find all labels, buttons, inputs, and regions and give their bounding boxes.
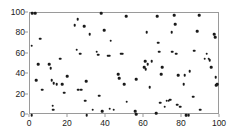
data-point	[118, 77, 121, 80]
data-point	[83, 25, 86, 28]
x-axis-tick-labels: 020406080100	[0, 119, 233, 133]
data-point	[170, 31, 173, 34]
y-axis-tick-labels: 020406080100	[0, 0, 25, 137]
data-point	[158, 50, 161, 53]
data-point	[184, 74, 187, 77]
y-tick-label: 20	[16, 89, 25, 98]
data-point	[85, 80, 88, 83]
data-point	[157, 41, 160, 44]
data-point	[63, 91, 66, 94]
data-point	[156, 15, 159, 18]
data-point	[48, 63, 51, 66]
data-point	[214, 36, 217, 39]
data-point	[161, 66, 164, 69]
y-tick-mark	[25, 52, 28, 53]
data-point	[73, 24, 76, 27]
x-tick-label: 20	[62, 119, 71, 128]
data-point	[192, 95, 195, 98]
data-point	[173, 14, 176, 17]
data-point	[103, 29, 106, 32]
data-point	[210, 66, 213, 69]
data-point	[187, 114, 190, 117]
data-point	[135, 113, 138, 116]
data-point	[198, 14, 201, 17]
y-tick-label: 80	[16, 28, 25, 37]
plot-area	[29, 12, 219, 114]
data-point	[159, 101, 162, 104]
data-point	[109, 108, 112, 111]
y-tick-label: 40	[16, 69, 25, 78]
data-point	[31, 114, 34, 117]
x-tick-mark	[105, 114, 106, 117]
data-point	[101, 110, 104, 113]
data-point	[123, 83, 126, 86]
data-point	[215, 76, 218, 79]
data-point	[39, 37, 42, 40]
data-point	[196, 30, 199, 33]
x-tick-label: 80	[176, 119, 185, 128]
y-tick-mark	[25, 32, 28, 33]
x-tick-mark	[67, 114, 68, 117]
data-point	[121, 53, 124, 56]
y-tick-mark	[25, 93, 28, 94]
data-point	[174, 23, 177, 26]
data-point	[188, 70, 191, 73]
scatter-plot-figure: 020406080100 020406080100	[0, 0, 233, 137]
x-tick-label: 100	[212, 119, 226, 128]
x-tick-mark	[181, 114, 182, 117]
data-point	[79, 53, 82, 56]
data-point	[50, 67, 53, 70]
x-tick-mark	[143, 114, 144, 117]
data-point	[97, 54, 100, 57]
data-point	[84, 99, 87, 102]
y-tick-mark	[25, 12, 28, 13]
data-point	[31, 44, 34, 47]
data-point	[80, 88, 83, 91]
y-tick-mark	[25, 73, 28, 74]
data-point	[100, 12, 103, 15]
data-point	[91, 109, 94, 112]
x-tick-mark	[29, 114, 30, 117]
data-point	[208, 59, 211, 62]
data-point	[193, 49, 196, 52]
data-point	[183, 83, 186, 86]
data-point	[89, 33, 92, 36]
data-point	[41, 88, 44, 91]
data-point	[205, 53, 208, 56]
data-point	[147, 63, 150, 66]
data-point	[85, 114, 88, 117]
y-tick-label: 60	[16, 49, 25, 58]
data-point	[148, 86, 151, 89]
data-point	[150, 60, 153, 63]
data-point	[61, 83, 64, 86]
data-point	[175, 53, 178, 56]
data-point	[144, 60, 147, 63]
data-point	[76, 18, 79, 21]
data-point	[171, 50, 174, 53]
y-tick-label: 100	[11, 8, 25, 17]
data-point	[179, 106, 182, 109]
data-point	[117, 73, 120, 76]
data-point	[164, 106, 167, 109]
data-point	[146, 31, 149, 34]
data-point	[177, 74, 180, 77]
data-point	[108, 55, 111, 58]
data-point	[135, 78, 138, 81]
data-point	[52, 109, 55, 112]
data-point	[98, 94, 101, 97]
data-point	[145, 68, 148, 71]
x-tick-label: 40	[100, 119, 109, 128]
data-point	[160, 73, 163, 76]
data-point	[66, 75, 69, 78]
data-point	[112, 109, 115, 112]
data-point	[34, 12, 37, 15]
data-point	[52, 105, 55, 108]
data-point	[155, 112, 158, 115]
x-tick-mark	[219, 114, 220, 117]
data-point	[216, 83, 219, 86]
data-point	[75, 48, 78, 51]
data-point	[35, 79, 38, 82]
data-point	[37, 63, 40, 66]
data-point	[125, 15, 128, 18]
data-point	[109, 39, 112, 42]
